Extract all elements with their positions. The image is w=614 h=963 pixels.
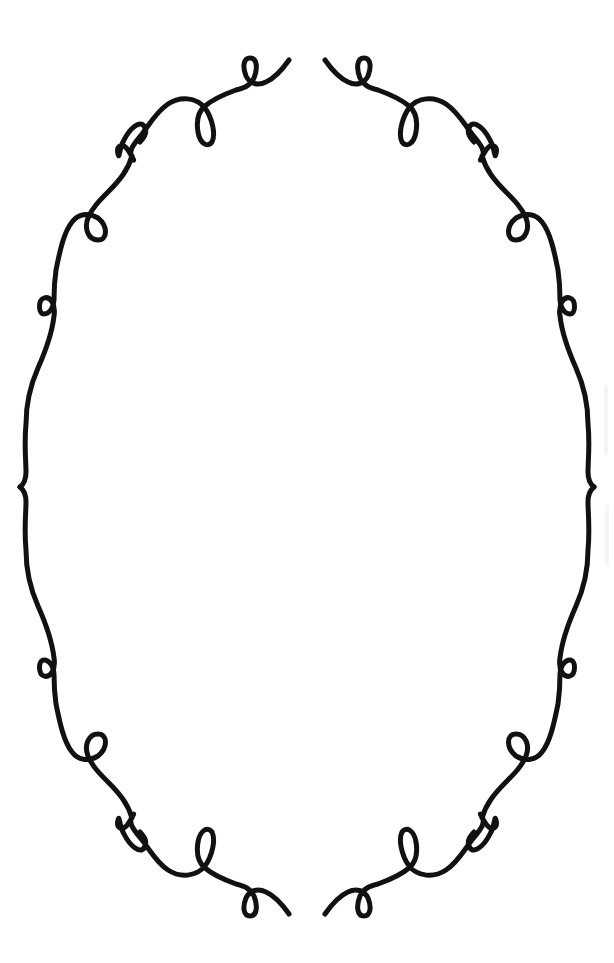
quarter-bottom-right xyxy=(325,487,594,916)
frame-illustration xyxy=(0,0,614,963)
quarter-top-right xyxy=(325,58,594,487)
frame-stroke xyxy=(20,58,594,916)
scan-artifact xyxy=(604,385,608,455)
quarter-bottom-left xyxy=(20,487,289,916)
scan-artifact xyxy=(605,505,609,565)
quarter-top-left xyxy=(20,58,289,487)
